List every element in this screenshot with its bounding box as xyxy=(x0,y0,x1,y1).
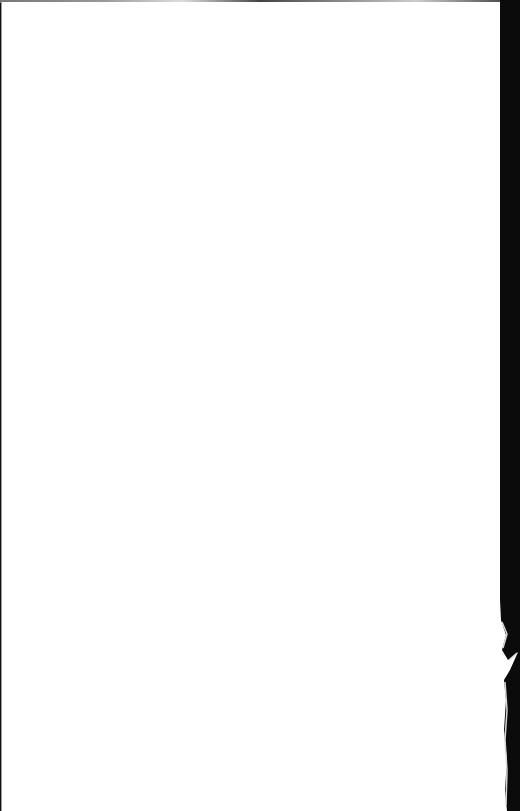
torn-paper-edge xyxy=(480,600,520,811)
blank-page xyxy=(1,2,501,811)
